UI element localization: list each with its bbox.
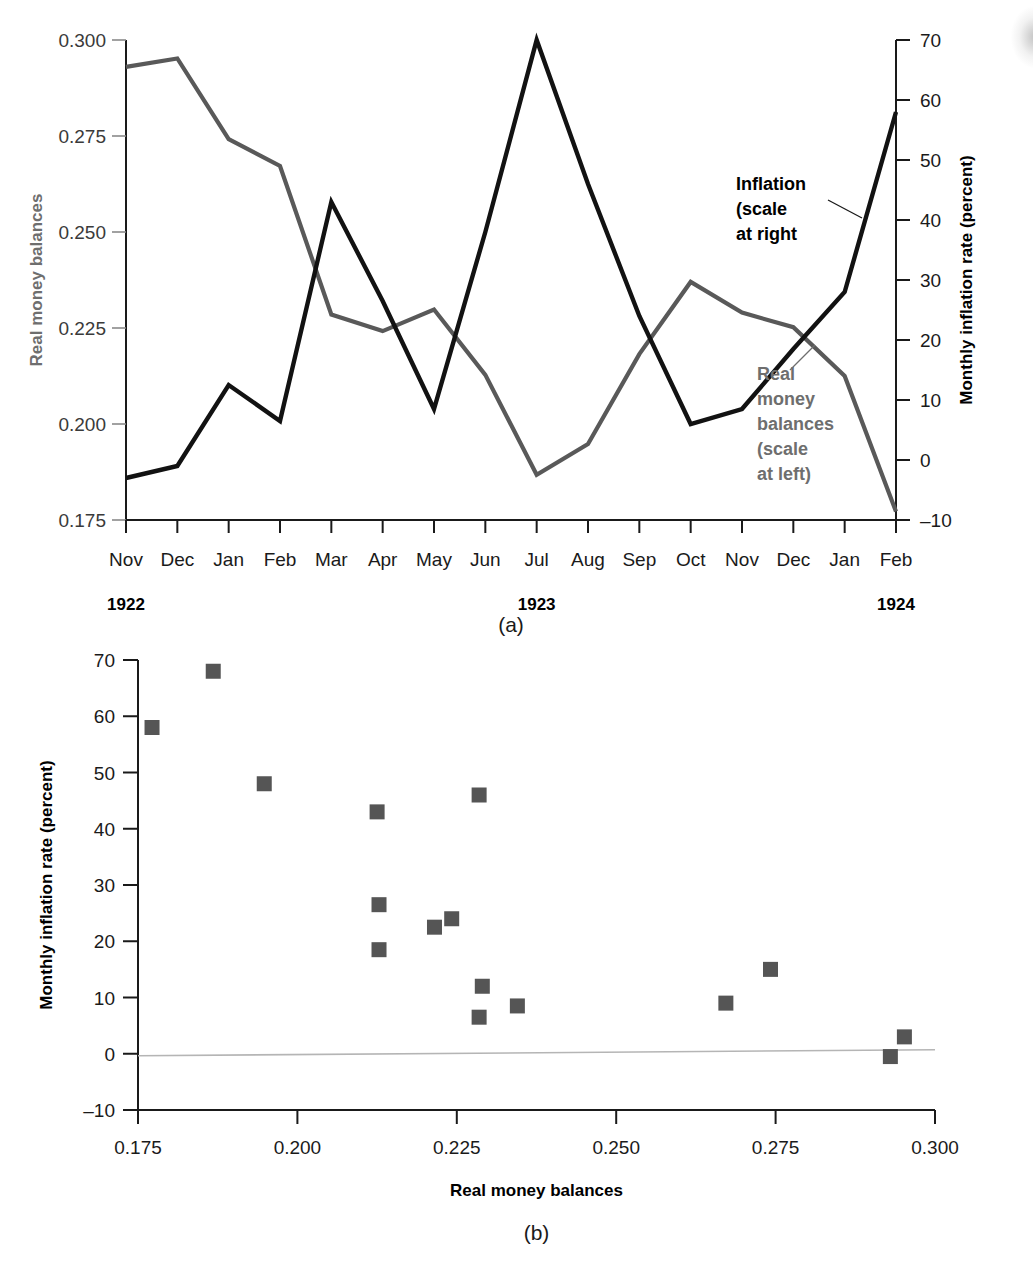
panel-a-right-tick-label: 60 bbox=[920, 90, 941, 111]
panel-b-x-tick-label: 0.300 bbox=[911, 1137, 959, 1158]
panel-b-scatter-marker bbox=[257, 776, 272, 791]
panel-a-month-label: Nov bbox=[109, 549, 143, 570]
panel-a-left-tick-label: 0.175 bbox=[58, 510, 106, 531]
panel-b-x-tick-label: 0.175 bbox=[114, 1137, 162, 1158]
panel-a-year-label: 1924 bbox=[877, 595, 915, 614]
panel-b-caption: (b) bbox=[524, 1221, 550, 1244]
panel-b-y-tick-label: 50 bbox=[94, 763, 115, 784]
panel-b-scatter-marker bbox=[472, 788, 487, 803]
panel-b-scatter-marker bbox=[206, 664, 221, 679]
panel-b-x-tick-label: 0.225 bbox=[433, 1137, 481, 1158]
panel-a-month-label: May bbox=[416, 549, 452, 570]
panel-a-annotation-inflation-line: Inflation bbox=[736, 174, 806, 194]
panel-b: 706050403020100–100.1750.2000.2250.2500.… bbox=[37, 650, 959, 1244]
panel-a-month-label: Feb bbox=[264, 549, 297, 570]
panel-a-annotation-real-money-line: Real bbox=[757, 364, 795, 384]
panel-a-annotation-real-money-line: (scale bbox=[757, 439, 808, 459]
panel-a-month-label: Jan bbox=[213, 549, 244, 570]
panel-a-right-tick-label: 40 bbox=[920, 210, 941, 231]
panel-b-scatter-marker bbox=[472, 1010, 487, 1025]
panel-a-annotation-real-money-line: balances bbox=[757, 414, 834, 434]
panel-b-y-tick-label: –10 bbox=[83, 1100, 115, 1121]
panel-b-y-tick-label: 30 bbox=[94, 875, 115, 896]
panel-a-month-label: Nov bbox=[725, 549, 759, 570]
panel-a-line-inflation bbox=[126, 40, 896, 478]
panel-a-right-axis-title: Monthly inflation rate (percent) bbox=[957, 155, 976, 404]
panel-b-scatter-marker bbox=[718, 996, 733, 1011]
panel-b-scatter-marker bbox=[510, 998, 525, 1013]
panel-a-month-label: Jul bbox=[525, 549, 549, 570]
panel-a-month-label: Jun bbox=[470, 549, 501, 570]
panel-a-month-label: Apr bbox=[368, 549, 398, 570]
panel-b-x-tick-label: 0.200 bbox=[274, 1137, 322, 1158]
panel-b-axis-frame bbox=[138, 660, 935, 1110]
panel-a-month-label: Jan bbox=[829, 549, 860, 570]
panel-a-right-tick-label: 50 bbox=[920, 150, 941, 171]
panel-b-scatter-marker bbox=[475, 979, 490, 994]
panel-b-scatter-marker bbox=[372, 897, 387, 912]
panel-b-y-tick-label: 40 bbox=[94, 819, 115, 840]
panel-a-left-tick-label: 0.200 bbox=[58, 414, 106, 435]
panel-a-right-tick-label: 70 bbox=[920, 30, 941, 51]
panel-a-annotation-inflation-line: (scale bbox=[736, 199, 787, 219]
panel-b-y-tick-label: 70 bbox=[94, 650, 115, 671]
panel-a-month-label: Dec bbox=[776, 549, 810, 570]
panel-a-left-tick-label: 0.225 bbox=[58, 318, 106, 339]
panel-a-left-tick-label: 0.275 bbox=[58, 126, 106, 147]
scan-artifact bbox=[1011, 6, 1033, 68]
panel-a-right-tick-label: 30 bbox=[920, 270, 941, 291]
panel-b-scatter-marker bbox=[763, 962, 778, 977]
panel-a-right-tick-label: 20 bbox=[920, 330, 941, 351]
panel-a-left-axis-title: Real money balances bbox=[27, 194, 46, 367]
panel-b-y-tick-label: 20 bbox=[94, 931, 115, 952]
panel-a-month-label: Sep bbox=[622, 549, 656, 570]
panel-b-zero-line bbox=[138, 1050, 935, 1056]
panel-b-scatter-marker bbox=[370, 804, 385, 819]
panel-a-month-label: Dec bbox=[160, 549, 194, 570]
panel-a-caption: (a) bbox=[498, 613, 524, 636]
panel-a-right-tick-label: –10 bbox=[920, 510, 952, 531]
panel-b-scatter-marker bbox=[427, 920, 442, 935]
panel-b-scatter-marker bbox=[897, 1029, 912, 1044]
panel-a-month-label: Mar bbox=[315, 549, 348, 570]
panel-a-left-tick-label: 0.250 bbox=[58, 222, 106, 243]
panel-a-right-tick-label: 10 bbox=[920, 390, 941, 411]
panel-a-annotation-real-money-line: at left) bbox=[757, 464, 811, 484]
panel-b-scatter-marker bbox=[372, 942, 387, 957]
panel-a-year-label: 1923 bbox=[518, 595, 556, 614]
panel-b-x-tick-label: 0.275 bbox=[752, 1137, 800, 1158]
panel-b-y-axis-title: Monthly inflation rate (percent) bbox=[37, 760, 56, 1009]
panel-b-y-tick-label: 0 bbox=[104, 1044, 115, 1065]
panel-b-x-tick-label: 0.250 bbox=[592, 1137, 640, 1158]
figure-canvas: 0.3000.2750.2500.2250.2000.1757060504030… bbox=[0, 0, 1033, 1282]
panel-a-month-label: Aug bbox=[571, 549, 605, 570]
panel-a-left-tick-label: 0.300 bbox=[58, 30, 106, 51]
panel-a-year-label: 1922 bbox=[107, 595, 145, 614]
figure-root: 0.3000.2750.2500.2250.2000.1757060504030… bbox=[0, 0, 1033, 1282]
panel-b-scatter-marker bbox=[145, 720, 160, 735]
panel-a: 0.3000.2750.2500.2250.2000.1757060504030… bbox=[27, 30, 976, 636]
panel-b-scatter-marker bbox=[883, 1049, 898, 1064]
panel-b-y-tick-label: 10 bbox=[94, 988, 115, 1009]
panel-b-scatter-marker bbox=[444, 911, 459, 926]
panel-a-annotation-inflation-line: at right bbox=[736, 224, 797, 244]
panel-a-annotation-real-money-line: money bbox=[757, 389, 815, 409]
panel-a-month-label: Oct bbox=[676, 549, 706, 570]
panel-a-leader-inflation bbox=[828, 200, 862, 218]
panel-a-month-label: Feb bbox=[880, 549, 913, 570]
panel-b-x-axis-title: Real money balances bbox=[450, 1181, 623, 1200]
panel-b-y-tick-label: 60 bbox=[94, 706, 115, 727]
panel-a-right-tick-label: 0 bbox=[920, 450, 931, 471]
